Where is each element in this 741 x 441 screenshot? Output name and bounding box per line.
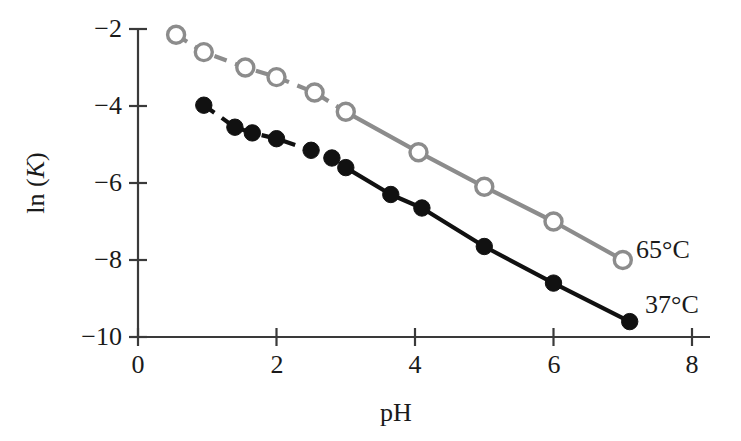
series-0-marker	[237, 59, 254, 76]
x-tick-label-4: 8	[686, 352, 699, 378]
series-0-marker	[337, 103, 354, 120]
series-1-marker	[383, 186, 399, 202]
series-1-marker	[268, 131, 284, 147]
series-1-marker	[476, 238, 492, 254]
series-0-marker	[306, 84, 323, 101]
series-group	[168, 26, 638, 330]
chart-figure: −2 −4 −6 −8 −10 0 2 4 6 8 pH ln (K) 65°C…	[0, 0, 741, 441]
series-1-marker	[545, 275, 561, 291]
y-tick-label-4: −10	[52, 324, 122, 350]
y-axis-title-suffix: )	[21, 152, 50, 161]
x-tick-label-0: 0	[132, 352, 145, 378]
x-tick-label-3: 6	[548, 352, 561, 378]
series-0-marker	[268, 69, 285, 86]
series-0-marker	[410, 144, 427, 161]
series-label-hot: 65°C	[636, 237, 690, 263]
series-1-marker	[303, 142, 319, 158]
series-1-marker	[227, 119, 243, 135]
x-tick-label-2: 4	[409, 352, 422, 378]
series-0-marker	[476, 178, 493, 195]
series-1-marker	[324, 150, 340, 166]
series-label-cold: 37°C	[645, 292, 699, 318]
y-axis-title: ln (K)	[23, 123, 49, 243]
series-0-marker	[168, 26, 185, 43]
y-tick-label-1: −4	[60, 93, 122, 119]
series-1-marker	[196, 97, 212, 113]
series-1-marker	[622, 313, 638, 329]
series-0-marker	[195, 44, 212, 61]
x-tick-label-1: 2	[271, 352, 284, 378]
y-tick-label-0: −2	[60, 16, 122, 42]
series-0-marker	[614, 252, 631, 269]
x-axis-title: pH	[380, 400, 412, 426]
y-tick-label-2: −6	[60, 170, 122, 196]
y-tick-label-3: −8	[60, 247, 122, 273]
series-1-marker	[414, 200, 430, 216]
axis-group	[129, 29, 710, 346]
series-0-marker	[545, 213, 562, 230]
y-axis-title-variable: K	[21, 161, 50, 178]
series-1-marker	[338, 159, 354, 175]
plot-area	[0, 0, 741, 441]
y-axis-title-prefix: ln (	[21, 178, 50, 213]
x-axis-title-text: pH	[380, 398, 412, 427]
series-1-marker	[244, 125, 260, 141]
